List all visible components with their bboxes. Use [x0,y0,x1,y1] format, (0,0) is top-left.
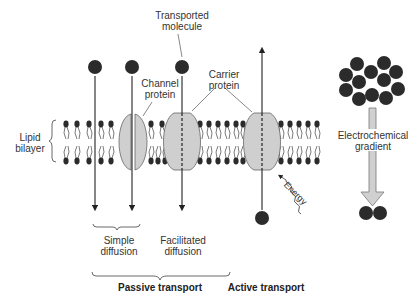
label-carrier-protein: Carrier protein [200,69,248,91]
carrier-protein-active [244,113,281,170]
label-channel-protein: Channel protein [136,78,184,100]
leader-transported-molecule [178,34,182,57]
label-passive-transport: Passive transport [110,282,210,293]
leader-carrier-2 [225,88,252,112]
molecule-active [255,211,269,225]
leader-channel-protein [143,102,152,116]
molecule-low-2 [373,206,387,220]
membrane-transport-diagram: Transported molecule Channel protein Car… [0,0,417,302]
channel-protein [119,114,147,170]
label-transported-molecule: Transported molecule [146,10,218,32]
carrier-protein-facilitated [164,113,201,170]
molecule-cluster [339,56,405,106]
simple-diffusion-brace [93,224,140,230]
label-simple-diffusion: Simple diffusion [96,235,142,257]
passive-transport-brace [92,272,230,280]
molecule-simple-diffusion [88,60,102,74]
label-facilitated-diffusion: Facilitated diffusion [158,235,208,257]
leader-carrier-1 [192,88,215,111]
label-lipid-bilayer: Lipid bilayer [12,132,48,154]
label-active-transport: Active transport [226,282,306,293]
molecule-low-1 [359,206,373,220]
molecule-facilitated [175,60,189,74]
molecule-channel [125,60,139,74]
label-electrochemical-gradient: Electrochemical gradient [336,130,410,152]
gradient-arrow [361,108,384,206]
lipid-bilayer-brace [49,120,56,162]
